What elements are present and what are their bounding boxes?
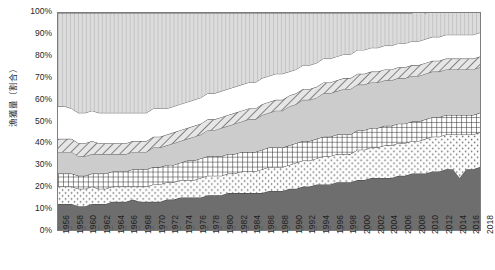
x-tick-label: 1956 bbox=[61, 200, 71, 234]
x-tick-label: 1972 bbox=[170, 200, 180, 234]
x-tick-label: 1976 bbox=[198, 200, 208, 234]
x-tick-label: 2018 bbox=[485, 200, 495, 234]
x-tick-label: 1964 bbox=[116, 200, 126, 234]
x-tick-label: 1996 bbox=[335, 200, 345, 234]
x-tick-label: 2004 bbox=[389, 200, 399, 234]
x-tick-label: 1974 bbox=[184, 200, 194, 234]
x-tick-label: 2000 bbox=[362, 200, 372, 234]
x-tick-label: 1966 bbox=[129, 200, 139, 234]
x-tick-label: 1994 bbox=[321, 200, 331, 234]
x-tick-label: 1992 bbox=[307, 200, 317, 234]
x-tick-label: 1986 bbox=[266, 200, 276, 234]
x-tick-label: 1962 bbox=[102, 200, 112, 234]
x-tick-label: 2002 bbox=[376, 200, 386, 234]
x-tick-label: 1970 bbox=[157, 200, 167, 234]
x-tick-label: 2008 bbox=[417, 200, 427, 234]
x-tick-label: 1984 bbox=[252, 200, 262, 234]
x-tick-label: 1960 bbox=[88, 200, 98, 234]
x-tick-label: 1958 bbox=[75, 200, 85, 234]
x-tick-label: 2010 bbox=[430, 200, 440, 234]
x-tick-label: 1990 bbox=[294, 200, 304, 234]
x-tick-label: 1968 bbox=[143, 200, 153, 234]
x-tick-label: 1998 bbox=[348, 200, 358, 234]
x-tick-label: 1982 bbox=[239, 200, 249, 234]
x-tick-label: 1980 bbox=[225, 200, 235, 234]
x-tick-label: 1978 bbox=[211, 200, 221, 234]
x-tick-label: 2012 bbox=[444, 200, 454, 234]
x-tick-label: 2006 bbox=[403, 200, 413, 234]
x-tick-label: 2016 bbox=[471, 200, 481, 234]
x-tick-label: 2014 bbox=[458, 200, 468, 234]
x-tick-label: 1988 bbox=[280, 200, 290, 234]
